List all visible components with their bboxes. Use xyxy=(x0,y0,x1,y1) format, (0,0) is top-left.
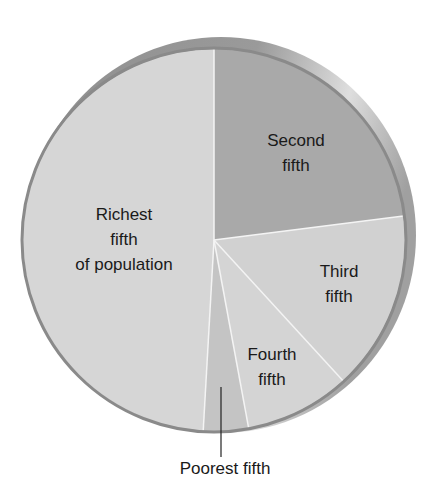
label-line: fifth xyxy=(110,230,137,249)
label-poorest-fifth: Poorest fifth xyxy=(180,459,271,478)
label-line: of population xyxy=(75,255,172,274)
label-line: fifth xyxy=(282,156,309,175)
label-line: Second xyxy=(267,131,325,150)
label-line: Third xyxy=(320,262,359,281)
pie-slices xyxy=(23,49,405,431)
label-line: Richest xyxy=(96,205,153,224)
label-line: Fourth xyxy=(247,345,296,364)
label-line: fifth xyxy=(258,370,285,389)
label-line: fifth xyxy=(325,287,352,306)
pie-chart: Second fifth Richest fifth of population… xyxy=(0,0,438,497)
